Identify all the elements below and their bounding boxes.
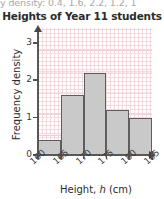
x-axis-tick — [128, 151, 130, 159]
x-axis-title-prefix: Height, — [60, 184, 99, 195]
x-axis-tick — [60, 151, 62, 159]
x-axis-tick — [106, 151, 108, 159]
x-axis-title: Height, h (cm) — [28, 184, 164, 195]
x-axis-tick — [151, 151, 153, 159]
histogram-figure: y density: 0.4, 1.6, 2.2, 1.2, 1 Heights… — [0, 0, 164, 199]
x-axis-tick — [83, 151, 85, 159]
y-axis-tick — [33, 117, 39, 119]
x-axis-title-suffix: (cm) — [106, 184, 132, 195]
y-axis-tick — [33, 79, 39, 81]
y-axis-tick — [33, 154, 39, 156]
x-axis-tick-labels: 160165170175180185 — [0, 0, 164, 199]
y-axis-title: Frequency density — [11, 35, 22, 155]
y-axis-tick — [33, 42, 39, 44]
